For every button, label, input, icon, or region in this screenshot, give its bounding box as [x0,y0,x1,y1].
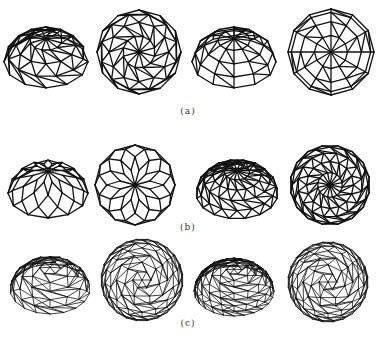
dome-c3-perspective [194,258,274,316]
dome-b2-plan [95,145,175,225]
dome-a1-perspective [4,27,88,88]
dome-b3-perspective [197,160,277,218]
dome-b4-plan [291,146,369,224]
dome-c1-perspective [11,257,90,314]
dome-b1-perspective [8,160,88,218]
caption-a: (a) [180,106,195,116]
dome-c4-plan [288,242,367,321]
dome-figure [0,0,376,340]
dome-a4-plan [288,9,374,95]
dome-c2-plan [101,239,182,320]
caption-b: (b) [180,222,196,232]
dome-a2-plan [97,10,181,94]
dome-a3-perspective [192,27,276,88]
caption-c: (c) [180,318,195,328]
